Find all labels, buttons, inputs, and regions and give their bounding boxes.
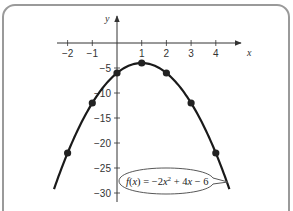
x-axis-name: x bbox=[246, 47, 252, 58]
y-tick-label: −20 bbox=[94, 138, 111, 149]
x-tick-label: −2 bbox=[62, 48, 74, 59]
y-tick-label: −25 bbox=[94, 163, 111, 174]
data-points bbox=[64, 59, 219, 156]
y-tick-label: −15 bbox=[94, 113, 111, 124]
data-point bbox=[89, 99, 96, 106]
x-tick-label: −1 bbox=[87, 48, 99, 59]
x-tick-label: 4 bbox=[213, 48, 219, 59]
data-point bbox=[188, 99, 195, 106]
data-point bbox=[212, 149, 219, 156]
x-tick-label: 3 bbox=[188, 48, 194, 59]
x-tick-label: 2 bbox=[164, 48, 170, 59]
equation-callout: f(x) = −2x2 + 4x − 6 bbox=[119, 168, 228, 194]
data-point bbox=[64, 149, 71, 156]
equation-label: f(x) = −2x2 + 4x − 6 bbox=[126, 175, 209, 188]
y-tick-label: −5 bbox=[100, 63, 112, 74]
data-point bbox=[163, 69, 170, 76]
data-point bbox=[138, 59, 145, 66]
y-axis-name: y bbox=[104, 13, 110, 24]
y-tick-label: −30 bbox=[94, 188, 111, 199]
x-tick-label: 1 bbox=[139, 48, 145, 59]
parabola-chart: xy−2−11234−5−10−15−20−25−30 f(x) = −2x2 … bbox=[0, 0, 293, 211]
data-point bbox=[113, 69, 120, 76]
